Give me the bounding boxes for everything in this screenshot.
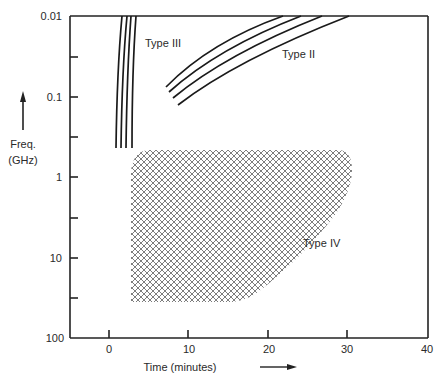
x-tick-label: 10 bbox=[183, 343, 195, 355]
type-iii-label: Type III bbox=[145, 37, 181, 49]
y-tick-label: 0.01 bbox=[41, 10, 62, 22]
y-tick-label: 0.1 bbox=[47, 91, 62, 103]
right-arrow-head-icon bbox=[287, 364, 297, 370]
x-tick-label: 0 bbox=[106, 343, 112, 355]
y-axis-title-line2: (GHz) bbox=[8, 154, 37, 166]
type-iv-label: Type IV bbox=[303, 237, 341, 249]
type-iv-region bbox=[131, 150, 352, 302]
x-axis-title: Time (minutes) bbox=[144, 361, 297, 373]
x-axis-ticks bbox=[109, 330, 347, 338]
type-iii-bursts bbox=[116, 16, 136, 148]
y-axis-title-line1: Freq. bbox=[10, 138, 36, 150]
y-tick-label: 1 bbox=[56, 171, 62, 183]
x-tick-label: 20 bbox=[263, 343, 275, 355]
y-axis-title: Freq. (GHz) bbox=[8, 91, 37, 166]
y-tick-labels: 0.01 0.1 1 10 100 bbox=[41, 10, 64, 344]
up-arrow-head-icon bbox=[20, 91, 26, 102]
y-axis-ticks bbox=[70, 57, 78, 298]
x-axis-title-text: Time (minutes) bbox=[144, 361, 217, 373]
y-tick-label: 10 bbox=[50, 252, 62, 264]
x-tick-labels: 0 10 20 30 40 bbox=[106, 343, 433, 355]
y-tick-label: 100 bbox=[46, 332, 64, 344]
x-tick-label: 30 bbox=[341, 343, 353, 355]
type-ii-label: Type II bbox=[282, 48, 315, 60]
type-ii-bursts bbox=[166, 16, 349, 105]
x-tick-label: 40 bbox=[421, 343, 433, 355]
radio-burst-chart: 0.01 0.1 1 10 100 0 10 20 30 40 Freq. (G… bbox=[0, 0, 446, 384]
